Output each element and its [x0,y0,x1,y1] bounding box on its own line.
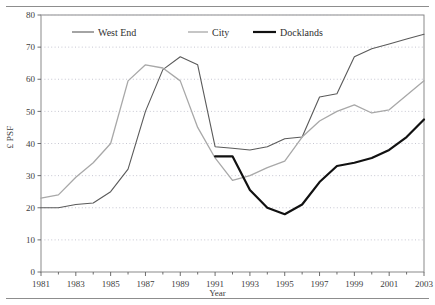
y-axis-tick-label: 50 [26,107,36,117]
legend-label: City [212,27,229,38]
y-axis-tick-label: 30 [26,171,36,181]
x-axis-tick-label: 2001 [380,279,398,289]
legend-label: West End [98,27,136,38]
x-axis-tick-label: 1993 [241,279,260,289]
y-axis-tick-label: 10 [26,235,36,245]
figure: 0102030405060708019811983198519871989199… [0,0,435,305]
x-axis-tick-label: 2003 [415,279,434,289]
y-axis-tick-label: 40 [26,139,36,149]
x-axis-tick-label: 1997 [311,279,330,289]
x-axis-title: Year [0,288,435,298]
x-axis-tick-label: 1983 [67,279,86,289]
y-axis-tick-label: 60 [26,74,36,84]
y-axis-tick-label: 20 [26,203,36,213]
plot-border [41,15,424,272]
y-axis-tick-label: 80 [26,10,36,20]
x-axis-tick-label: 1995 [276,279,295,289]
x-axis-tick-label: 1985 [102,279,121,289]
line-chart: 0102030405060708019811983198519871989199… [0,0,435,305]
x-axis-tick-label: 1989 [171,279,190,289]
x-axis-tick-label: 1987 [136,279,155,289]
plot-area-wrapper: 0102030405060708019811983198519871989199… [0,0,435,305]
y-axis-title: £ PSF [5,117,15,157]
y-axis-tick-label: 0 [31,267,36,277]
x-axis-tick-label: 1999 [345,279,364,289]
x-axis-tick-label: 1981 [32,279,50,289]
y-axis-tick-label: 70 [26,42,36,52]
legend-label: Docklands [280,27,323,38]
x-axis-tick-label: 1991 [206,279,224,289]
